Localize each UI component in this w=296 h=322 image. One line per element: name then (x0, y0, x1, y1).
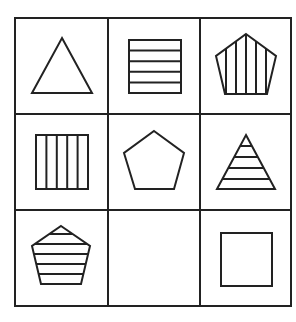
cell-r2c2-pentagon (124, 131, 184, 189)
square-shape (36, 135, 88, 189)
puzzle-grid (0, 0, 296, 322)
cell-r3c1-striped-pentagon (28, 226, 94, 284)
triangle-shape (217, 135, 275, 189)
cell-r1c3-striped-pentagon (216, 30, 276, 98)
triangle-shape (32, 38, 92, 93)
square-shape (221, 233, 272, 286)
cell-r3c3-square (221, 233, 272, 286)
cell-r2c3-striped-triangle (210, 135, 282, 189)
pentagon-shape (124, 131, 184, 189)
cell-r1c1-triangle (32, 38, 92, 93)
cell-r2c1-striped-square (36, 135, 88, 189)
cell-r1c2-striped-square (129, 40, 181, 93)
square-shape (129, 40, 181, 93)
